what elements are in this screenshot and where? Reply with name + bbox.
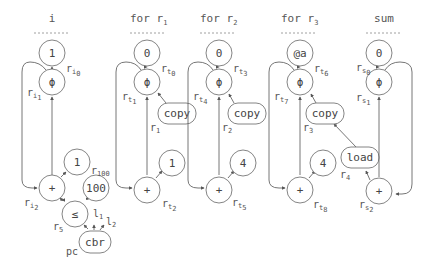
svg-text:≤: ≤ xyxy=(72,208,79,221)
node-load: load xyxy=(341,147,379,168)
node-i-phi: ϕ xyxy=(39,69,65,95)
svg-text:@a: @a xyxy=(293,47,306,60)
node-r2-plus: + xyxy=(206,177,232,203)
column-title-for-r2: for r2 xyxy=(200,12,237,33)
svg-text:for r3: for r3 xyxy=(281,12,318,27)
svg-text:sum: sum xyxy=(374,12,394,25)
svg-text:0: 0 xyxy=(216,47,223,60)
reg-rs1: rs1 xyxy=(356,92,370,107)
svg-text:+: + xyxy=(144,184,151,197)
dataflow-diagram: i for r1 for r2 for r3 sum 1 ϕ xyxy=(0,0,431,265)
column-title-sum: sum xyxy=(366,12,402,33)
svg-text:+: + xyxy=(49,182,56,195)
svg-text:4: 4 xyxy=(320,157,327,170)
reg-rs0: rs0 xyxy=(356,62,370,77)
reg-l1: l1 xyxy=(93,208,103,221)
column-title-for-r3: for r3 xyxy=(281,12,318,33)
reg-rt0: rt0 xyxy=(161,63,175,78)
reg-rt7: rt7 xyxy=(274,91,288,106)
svg-text:ϕ: ϕ xyxy=(376,76,383,89)
node-r3-init: @a xyxy=(287,40,313,66)
reg-rt1: rt1 xyxy=(122,91,136,106)
svg-text:0: 0 xyxy=(376,47,383,60)
reg-rt4: rt4 xyxy=(193,91,207,106)
node-r1-copy: copy xyxy=(158,103,196,124)
node-sum-plus: + xyxy=(366,178,392,204)
node-sum-init: 0 xyxy=(366,40,392,66)
node-r2-phi: ϕ xyxy=(206,69,232,95)
reg-rt8: rt8 xyxy=(313,199,327,214)
column-title-for-r1: for r1 xyxy=(130,12,167,33)
svg-text:+: + xyxy=(376,185,383,198)
node-i-cbr: cbr xyxy=(79,231,111,253)
reg-rt3: rt3 xyxy=(233,63,247,78)
svg-text:for r2: for r2 xyxy=(200,12,237,27)
node-r1-init: 0 xyxy=(134,40,160,66)
svg-text:copy: copy xyxy=(234,107,261,120)
reg-pc: pc xyxy=(66,246,78,257)
node-r1-phi: ϕ xyxy=(134,69,160,95)
node-r1-plus: + xyxy=(134,177,160,203)
reg-rt2: rt2 xyxy=(162,198,176,213)
reg-ri2: ri2 xyxy=(24,197,38,212)
node-i-plus: + xyxy=(39,175,65,201)
svg-text:ϕ: ϕ xyxy=(297,76,304,89)
reg-r3: r3 xyxy=(303,122,313,135)
column-title-i: i xyxy=(34,12,70,33)
svg-text:for r1: for r1 xyxy=(130,12,167,27)
svg-text:0: 0 xyxy=(144,47,151,60)
svg-text:ϕ: ϕ xyxy=(216,76,223,89)
node-r2-copy: copy xyxy=(228,103,266,124)
reg-rt5: rt5 xyxy=(232,197,246,212)
reg-r1: r1 xyxy=(150,122,160,135)
svg-text:1: 1 xyxy=(49,47,56,60)
svg-text:1: 1 xyxy=(169,157,176,170)
reg-rt6: rt6 xyxy=(314,63,328,78)
reg-r2: r2 xyxy=(222,122,232,135)
svg-text:+: + xyxy=(216,184,223,197)
node-r3-four: 4 xyxy=(310,150,336,176)
reg-r5: r5 xyxy=(53,221,63,234)
node-r3-copy: copy xyxy=(306,103,344,124)
node-r3-plus: + xyxy=(287,177,313,203)
node-i-hundred: 100 xyxy=(83,175,109,201)
node-i-init: 1 xyxy=(39,40,65,66)
svg-text:100: 100 xyxy=(86,182,106,195)
reg-ri1: ri1 xyxy=(27,87,41,102)
svg-text:1: 1 xyxy=(74,156,81,169)
svg-text:i: i xyxy=(49,12,56,25)
node-i-one: 1 xyxy=(64,149,90,175)
reg-l2: l2 xyxy=(106,216,116,229)
svg-text:ϕ: ϕ xyxy=(49,76,56,89)
node-r3-phi: ϕ xyxy=(287,69,313,95)
node-r2-init: 0 xyxy=(206,40,232,66)
svg-text:cbr: cbr xyxy=(85,236,105,249)
svg-text:+: + xyxy=(297,184,304,197)
svg-text:load: load xyxy=(347,151,374,164)
node-i-le: ≤ xyxy=(62,201,88,227)
reg-r4: r4 xyxy=(340,169,350,182)
node-r1-one: 1 xyxy=(159,150,185,176)
svg-text:4: 4 xyxy=(240,157,247,170)
svg-text:copy: copy xyxy=(312,107,339,120)
svg-text:ϕ: ϕ xyxy=(144,76,151,89)
node-r2-four: 4 xyxy=(230,150,256,176)
reg-ri0: ri0 xyxy=(66,63,80,78)
svg-text:copy: copy xyxy=(164,107,191,120)
